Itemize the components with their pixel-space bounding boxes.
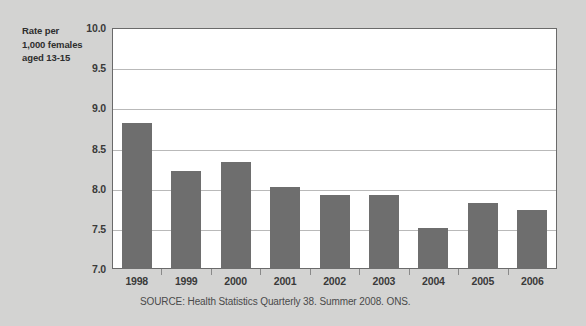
y-axis-tick-label: 7.5: [60, 223, 106, 235]
x-axis-tick-label-2005: 2005: [472, 275, 495, 287]
bar-2001: [270, 187, 300, 269]
bar-2000: [221, 162, 251, 269]
source-note: SOURCE: Health Statistics Quarterly 38. …: [140, 296, 411, 307]
y-axis-tick-labels: 7.07.58.08.59.09.510.0: [60, 0, 106, 326]
bar-2005: [468, 203, 498, 269]
x-axis-tick-label-2004: 2004: [422, 275, 445, 287]
bar-2002: [320, 195, 350, 269]
x-axis-tick-label-2002: 2002: [323, 275, 346, 287]
x-axis-tick-label-1999: 1999: [175, 275, 198, 287]
y-axis-tick-label: 9.5: [60, 62, 106, 74]
y-axis-tick-label: 9.0: [60, 102, 106, 114]
y-axis-tick-label: 8.5: [60, 143, 106, 155]
x-axis-tick-label-2003: 2003: [373, 275, 396, 287]
bar-2006: [517, 210, 547, 269]
bar-1998: [122, 123, 152, 269]
x-axis-tick-label-2001: 2001: [274, 275, 297, 287]
y-axis-tick-label: 10.0: [60, 22, 106, 34]
y-axis-tick-label: 8.0: [60, 183, 106, 195]
x-axis-tick-label-2000: 2000: [224, 275, 247, 287]
y-axis-tick-label: 7.0: [60, 263, 106, 275]
bar-2003: [369, 195, 399, 269]
x-axis-tick-label-2006: 2006: [521, 275, 544, 287]
bar-series: [112, 28, 557, 269]
bar-chart-figure: Rate per 1,000 females aged 13-15 7.07.5…: [0, 0, 586, 326]
bar-2004: [418, 228, 448, 269]
bar-1999: [171, 171, 201, 269]
x-axis-tick-label-1998: 1998: [125, 275, 148, 287]
x-axis-tick-labels: 199819992000200120022003200420052006: [112, 275, 557, 291]
